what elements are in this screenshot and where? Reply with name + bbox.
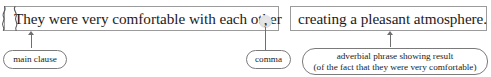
- sentence-box-adverbial-phrase: creating a pleasant atmosphere.: [290, 6, 487, 31]
- connector-line-comma: [265, 27, 266, 50]
- label-pill-comma: comma: [246, 50, 291, 69]
- connector-line-main-clause: [31, 34, 32, 48]
- connector-line-adverbial: [390, 34, 391, 47]
- sentence-annotation-diagram: They were very comfortable with each oth…: [0, 0, 491, 77]
- sentence-box-main-clause: They were very comfortable with each oth…: [4, 6, 279, 31]
- sentence-text-adverbial-phrase: creating a pleasant atmosphere.: [298, 11, 487, 26]
- label-text-adverbial-line1: adverbial phrase showing result: [337, 51, 454, 62]
- label-text-adverbial-line2: (of the fact that they were very comfort…: [314, 62, 477, 73]
- label-pill-adverbial-phrase: adverbial phrase showing result (of the …: [302, 48, 488, 75]
- label-text-main-clause: main clause: [13, 54, 57, 65]
- label-pill-main-clause: main clause: [3, 50, 67, 69]
- label-text-comma: comma: [255, 54, 282, 65]
- double-brace-separator-icon: [0, 5, 24, 32]
- sentence-text-main-clause: They were very comfortable with each oth…: [14, 11, 282, 26]
- comma-glyph: ,: [264, 16, 268, 24]
